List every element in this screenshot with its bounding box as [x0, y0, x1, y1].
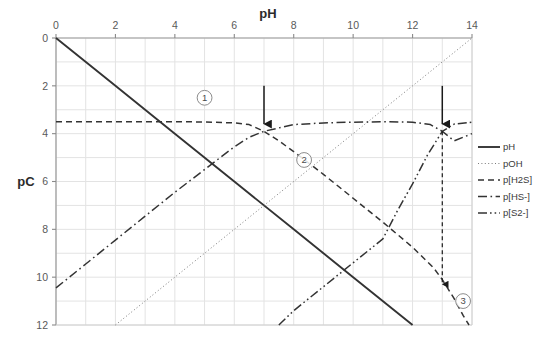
legend-label-poh: pOH — [503, 158, 523, 169]
y-tick-label: 4 — [42, 127, 48, 139]
legend-label-ph: pH — [503, 141, 515, 152]
x-tick-label: 0 — [53, 19, 59, 31]
x-tick-label: 12 — [407, 19, 419, 31]
canvas-background — [0, 0, 537, 340]
legend-label-ps2-: p[S2-] — [503, 207, 528, 218]
y-tick-label: 2 — [42, 80, 48, 92]
y-tick-label: 8 — [42, 223, 48, 235]
annotation-number: 1 — [202, 92, 207, 103]
x-tick-label: 14 — [466, 19, 478, 31]
x-tick-label: 8 — [291, 19, 297, 31]
legend-label-ph2s: p[H2S] — [503, 174, 532, 185]
x-tick-label: 4 — [172, 19, 178, 31]
pc-ph-diagram: 02468101214 024681012 pH pC 123 pHpOHp[H… — [0, 0, 537, 340]
y-tick-label: 12 — [36, 319, 48, 331]
annotation-number: 2 — [301, 154, 306, 165]
y-tick-label: 0 — [42, 32, 48, 44]
y-tick-label: 10 — [36, 271, 48, 283]
x-tick-label: 6 — [231, 19, 237, 31]
x-tick-label: 2 — [113, 19, 119, 31]
legend-label-phs-: p[HS-] — [503, 191, 530, 202]
annotation-number: 3 — [460, 295, 465, 306]
y-axis-title: pC — [17, 174, 35, 189]
y-tick-label: 6 — [42, 175, 48, 187]
chart-figure: 02468101214 024681012 pH pC 123 pHpOHp[H… — [0, 0, 537, 340]
x-axis-title: pH — [259, 6, 276, 21]
x-tick-label: 10 — [347, 19, 359, 31]
